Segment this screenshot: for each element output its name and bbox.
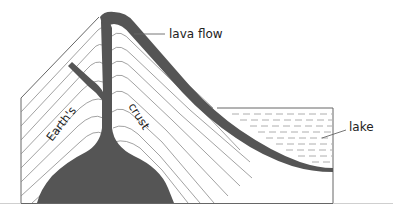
lake-leader [322, 130, 346, 138]
label-crust: crust [125, 100, 152, 132]
label-lava-flow: lava flow [169, 27, 223, 41]
label-lake: lake [349, 120, 374, 134]
volcano-diagram: lava flow lake Earth's crust [0, 0, 393, 215]
